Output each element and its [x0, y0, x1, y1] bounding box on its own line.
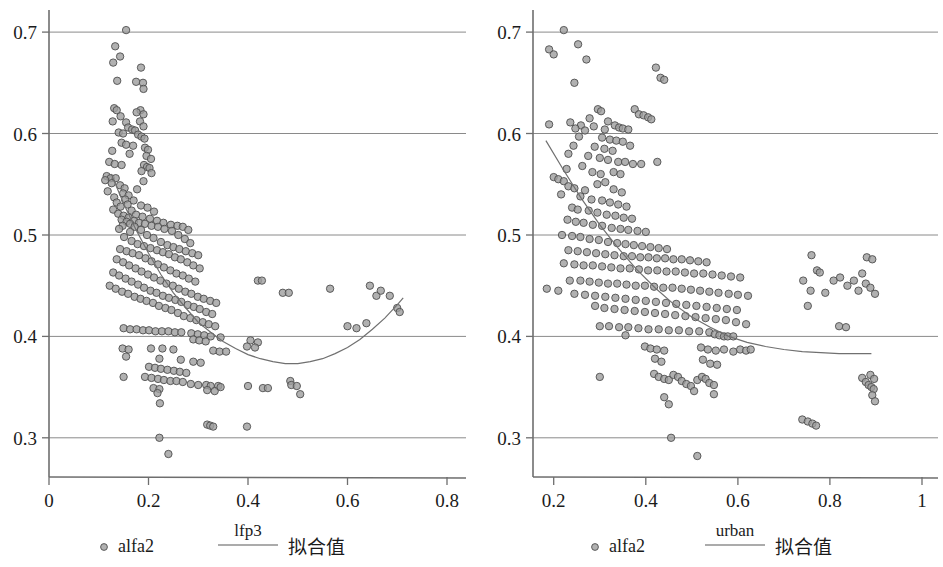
scatter-point: [645, 326, 652, 333]
scatter-point: [707, 360, 714, 367]
scatter-point: [109, 118, 116, 125]
x-axis-line: [533, 477, 938, 478]
scatter-point: [683, 301, 690, 308]
scatter-point: [625, 226, 632, 233]
scatter-point: [623, 203, 630, 210]
scatter-point: [713, 361, 720, 368]
scatter-point: [386, 292, 393, 299]
scatter-point: [204, 386, 211, 393]
scatter-point: [604, 118, 611, 125]
scatter-point: [601, 304, 608, 311]
scatter-point: [602, 251, 609, 258]
scatter-point: [869, 256, 876, 263]
scatter-point: [590, 123, 597, 130]
scatter-point: [637, 254, 644, 261]
scatter-point: [642, 297, 649, 304]
scatter-point: [661, 310, 668, 317]
scatter-point: [571, 290, 578, 297]
scatter-point: [630, 241, 637, 248]
scatter-point: [126, 150, 133, 157]
scatter-point: [653, 346, 660, 353]
scatter-point: [667, 434, 674, 441]
scatter-point: [581, 291, 588, 298]
scatter-point: [700, 270, 707, 277]
scatter-point: [601, 126, 608, 133]
scatter-point: [597, 170, 604, 177]
x-tick-label: 0.4: [236, 490, 260, 511]
scatter-point: [118, 161, 125, 168]
scatter-point: [628, 253, 635, 260]
scatter-point: [625, 126, 632, 133]
scatter-point: [602, 179, 609, 186]
scatter-point: [195, 252, 202, 259]
scatter-point: [209, 310, 216, 317]
scatter-point: [581, 127, 588, 134]
scatter-point: [285, 289, 292, 296]
scatter-point: [871, 398, 878, 405]
scatter-point: [212, 323, 219, 330]
scatter-point: [597, 108, 604, 115]
scatter-points-group: [543, 26, 879, 459]
scatter-point: [571, 79, 578, 86]
scatter-point: [243, 343, 250, 350]
x-tick-label: 0.6: [336, 490, 360, 511]
scatter-point: [615, 324, 622, 331]
scatter-point: [213, 299, 220, 306]
x-tick-label: 0: [44, 490, 54, 511]
scatter-point: [871, 290, 878, 297]
scatter-point: [622, 332, 629, 339]
scatter-point: [550, 51, 557, 58]
scatter-point: [170, 346, 177, 353]
scatter-point: [264, 384, 271, 391]
scatter-point: [122, 26, 129, 33]
scatter-point: [605, 323, 612, 330]
scatter-point: [251, 344, 258, 351]
scatter-point: [609, 147, 616, 154]
scatter-point: [670, 256, 677, 263]
scatter-point: [192, 278, 199, 285]
scatter-point: [566, 277, 573, 284]
scatter-point: [686, 257, 693, 264]
scatter-point: [293, 382, 300, 389]
scatter-point: [710, 391, 717, 398]
scatter-point: [682, 312, 689, 319]
scatter-point: [560, 26, 567, 33]
scatter-point: [604, 156, 611, 163]
scatter-point: [119, 130, 126, 137]
scatter-point: [621, 158, 628, 165]
scatter-point: [695, 258, 702, 265]
scatter-point: [568, 232, 575, 239]
scatter-point: [580, 219, 587, 226]
scatter-point: [730, 348, 737, 355]
scatter-point: [737, 274, 744, 281]
scatter-point: [175, 231, 182, 238]
scatter-point: [634, 227, 641, 234]
scatter-point: [661, 76, 668, 83]
scatter-point: [654, 158, 661, 165]
scatter-point: [183, 369, 190, 376]
scatter-point: [660, 284, 667, 291]
scatter-point: [592, 250, 599, 257]
scatter-point: [654, 267, 661, 274]
scatter-point: [366, 282, 373, 289]
legend-scatter-label: alfa2: [609, 536, 645, 556]
scatter-point: [353, 325, 360, 332]
scatter-point: [595, 236, 602, 243]
scatter-point: [111, 160, 118, 167]
scatter-point: [144, 204, 151, 211]
legend-fit-label: 拟合值: [775, 536, 832, 558]
scatter-point: [583, 56, 590, 63]
scatter-point: [647, 243, 654, 250]
scatter-point: [156, 400, 163, 407]
scatter-point: [675, 327, 682, 334]
scatter-point: [744, 292, 751, 299]
scatter-point: [377, 287, 384, 294]
scatter-point: [661, 255, 668, 262]
scatter-point: [603, 211, 610, 218]
scatter-point: [715, 289, 722, 296]
scatter-point: [140, 111, 147, 118]
scatter-point: [723, 305, 730, 312]
scatter-point: [652, 298, 659, 305]
y-tick-label: 0.3: [13, 428, 37, 449]
scatter-point: [147, 155, 154, 162]
